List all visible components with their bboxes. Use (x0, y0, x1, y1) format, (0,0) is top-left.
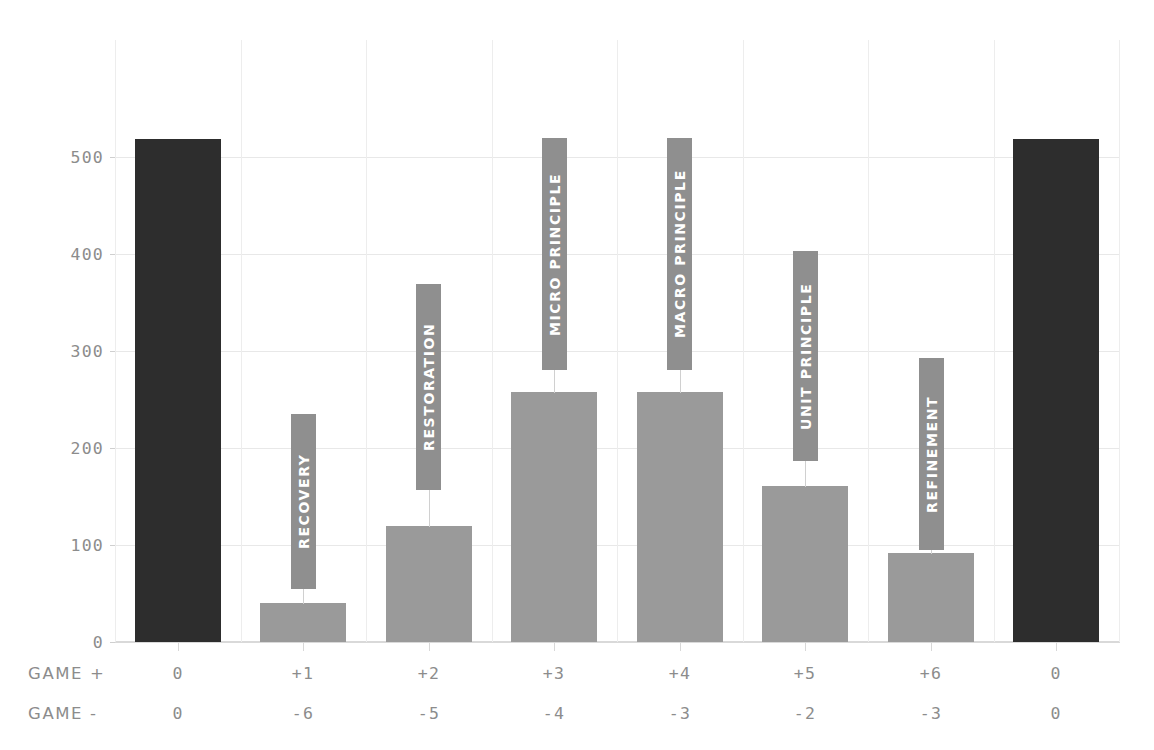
x-tick-game-minus-2: -5 (386, 704, 472, 723)
gridline-vertical (1119, 40, 1120, 642)
callout-leader-restoration (429, 490, 430, 527)
gridline-vertical (492, 40, 493, 642)
callout-leader-micro-principle (554, 370, 555, 393)
gridline-vertical (868, 40, 869, 642)
y-tick-label-100: 100 (44, 536, 104, 555)
bar-refinement[interactable] (888, 553, 974, 642)
y-tick-label-400: 400 (44, 245, 104, 264)
callout-label: MICRO PRINCIPLE (547, 172, 563, 335)
x-axis-row-title-game-plus: GAME + (28, 664, 148, 683)
callout-unit-principle: UNIT PRINCIPLE (793, 251, 818, 461)
x-tick-mark (178, 642, 179, 651)
bar-game-0-right[interactable] (1013, 139, 1099, 642)
callout-label: RESTORATION (421, 323, 437, 451)
x-axis-line (115, 642, 1120, 643)
callout-leader-unit-principle (805, 461, 806, 487)
x-tick-game-plus-1: +1 (260, 664, 346, 683)
bar-macro-principle[interactable] (637, 392, 723, 642)
gridline-vertical (241, 40, 242, 642)
x-tick-game-plus-0: 0 (135, 664, 221, 683)
x-tick-game-minus-1: -6 (260, 704, 346, 723)
plot-area: RECOVERY RESTORATION MICRO PRINCIPLE MAC… (115, 40, 1120, 642)
callout-restoration: RESTORATION (416, 284, 441, 490)
x-tick-game-minus-5: -2 (762, 704, 848, 723)
bar-micro-principle[interactable] (511, 392, 597, 642)
gridline-vertical (743, 40, 744, 642)
x-tick-game-minus-6: -3 (888, 704, 974, 723)
y-tick-label-200: 200 (44, 439, 104, 458)
gridline-vertical (617, 40, 618, 642)
bar-game-0-left[interactable] (135, 139, 221, 642)
callout-refinement: REFINEMENT (919, 358, 944, 550)
callout-label: MACRO PRINCIPLE (672, 170, 688, 339)
x-tick-game-minus-7: 0 (1013, 704, 1099, 723)
callout-label: REFINEMENT (924, 395, 940, 512)
x-tick-mark (303, 642, 304, 651)
callout-label: UNIT PRINCIPLE (798, 282, 814, 429)
gridline-vertical (994, 40, 995, 642)
bar-unit-principle[interactable] (762, 486, 848, 642)
callout-recovery: RECOVERY (291, 414, 316, 589)
x-tick-mark (805, 642, 806, 651)
callout-leader-macro-principle (680, 370, 681, 393)
x-tick-game-minus-4: -3 (637, 704, 723, 723)
callout-leader-refinement (931, 550, 932, 554)
gridline-vertical (115, 40, 116, 642)
y-tick-label-300: 300 (44, 342, 104, 361)
x-tick-mark (680, 642, 681, 651)
x-tick-mark (554, 642, 555, 651)
callout-micro-principle: MICRO PRINCIPLE (542, 138, 567, 370)
callout-macro-principle: MACRO PRINCIPLE (667, 138, 692, 370)
x-axis: GAME + 0 +1 +2 +3 +4 +5 +6 0 GAME - 0 -6… (0, 642, 1154, 750)
x-tick-mark (931, 642, 932, 651)
x-tick-mark (429, 642, 430, 651)
y-tick-label-500: 500 (44, 148, 104, 167)
x-axis-row-title-game-minus: GAME - (28, 704, 148, 723)
x-tick-game-plus-7: 0 (1013, 664, 1099, 683)
gridline-vertical (366, 40, 367, 642)
callout-leader-recovery (303, 589, 304, 604)
x-tick-game-plus-3: +3 (511, 664, 597, 683)
x-tick-game-plus-2: +2 (386, 664, 472, 683)
x-tick-game-plus-5: +5 (762, 664, 848, 683)
x-tick-game-plus-6: +6 (888, 664, 974, 683)
bar-recovery[interactable] (260, 603, 346, 642)
bar-chart: 500 400 300 200 100 0 (0, 0, 1154, 750)
x-tick-game-plus-4: +4 (637, 664, 723, 683)
x-tick-game-minus-0: 0 (135, 704, 221, 723)
bar-restoration[interactable] (386, 526, 472, 642)
x-tick-mark (1056, 642, 1057, 651)
x-tick-game-minus-3: -4 (511, 704, 597, 723)
callout-label: RECOVERY (296, 454, 312, 550)
